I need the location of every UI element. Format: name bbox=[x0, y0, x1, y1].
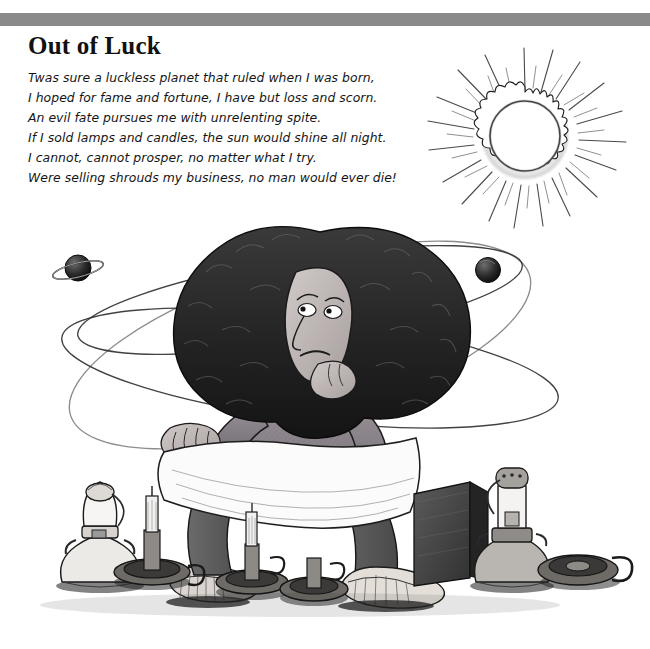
poem-block: Out of Luck Twas sure a luckless planet … bbox=[28, 33, 428, 188]
arm-right bbox=[328, 398, 389, 500]
candle-holder-center-left bbox=[216, 503, 288, 600]
torso bbox=[242, 398, 377, 512]
candle-holder-right bbox=[538, 555, 632, 590]
crate bbox=[414, 482, 488, 586]
shroud bbox=[158, 438, 420, 528]
page-title: Out of Luck bbox=[28, 33, 428, 59]
poem-line: An evil fate pursues me with unrelenting… bbox=[28, 108, 428, 128]
nose bbox=[293, 316, 304, 350]
planet-ringed bbox=[51, 255, 105, 283]
forearm bbox=[330, 350, 358, 392]
orbit-rings bbox=[47, 198, 564, 491]
oil-lamp-right bbox=[470, 468, 554, 593]
eye-left bbox=[298, 304, 316, 317]
header-rule bbox=[0, 13, 650, 26]
candle-holder-left bbox=[114, 486, 204, 590]
poem-line: If I sold lamps and candles, the sun wou… bbox=[28, 128, 428, 148]
eye-right bbox=[324, 306, 342, 319]
necklace bbox=[278, 398, 360, 411]
shoe-right bbox=[338, 567, 444, 612]
page-canvas: Out of Luck Twas sure a luckless planet … bbox=[0, 0, 650, 649]
planet-dark bbox=[476, 258, 501, 283]
poem-line: Twas sure a luckless planet that ruled w… bbox=[28, 68, 428, 88]
sun-icon bbox=[428, 48, 626, 228]
candle-holder-center bbox=[280, 558, 348, 606]
poem-body: Twas sure a luckless planet that ruled w… bbox=[28, 68, 428, 188]
arm-left bbox=[212, 404, 268, 460]
orbit-ring-lower bbox=[56, 286, 565, 450]
face bbox=[285, 268, 352, 383]
hair bbox=[174, 227, 471, 439]
orbit-ring-upper bbox=[71, 223, 529, 376]
poem-line: I cannot, cannot prosper, no matter what… bbox=[28, 148, 428, 168]
oil-lamp-left bbox=[56, 482, 144, 593]
hand-right bbox=[310, 361, 356, 399]
poem-line: Were selling shrouds my business, no man… bbox=[28, 168, 428, 188]
shoe-left bbox=[166, 566, 258, 608]
leg-right bbox=[324, 452, 397, 574]
mouth bbox=[300, 351, 330, 356]
neck bbox=[296, 370, 340, 406]
figure bbox=[158, 227, 470, 612]
orbit-ring-third bbox=[47, 198, 553, 491]
hand-left bbox=[161, 423, 220, 462]
leg-left bbox=[188, 455, 249, 575]
poem-line: I hoped for fame and fortune, I have but… bbox=[28, 88, 428, 108]
